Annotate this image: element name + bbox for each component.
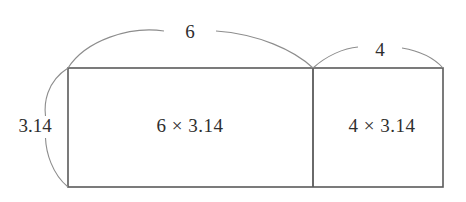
- width-brace-right-b: [402, 48, 443, 68]
- figure-canvas: [0, 0, 466, 202]
- height-dimension-label: 3.14: [6, 116, 64, 135]
- width-brace-left-a: [68, 30, 164, 68]
- right-width-dimension-label: 4: [358, 40, 402, 59]
- left-width-dimension-label: 6: [166, 22, 214, 41]
- width-brace-right-a: [313, 47, 358, 68]
- height-brace-lower: [46, 138, 69, 187]
- right-area-expression: 4 × 3.14: [327, 116, 437, 135]
- geometry-figure: 3.14 6 4 6 × 3.14 4 × 3.14: [0, 0, 466, 202]
- height-brace-upper: [45, 68, 68, 116]
- width-brace-left-b: [216, 31, 313, 68]
- left-area-expression: 6 × 3.14: [130, 116, 250, 135]
